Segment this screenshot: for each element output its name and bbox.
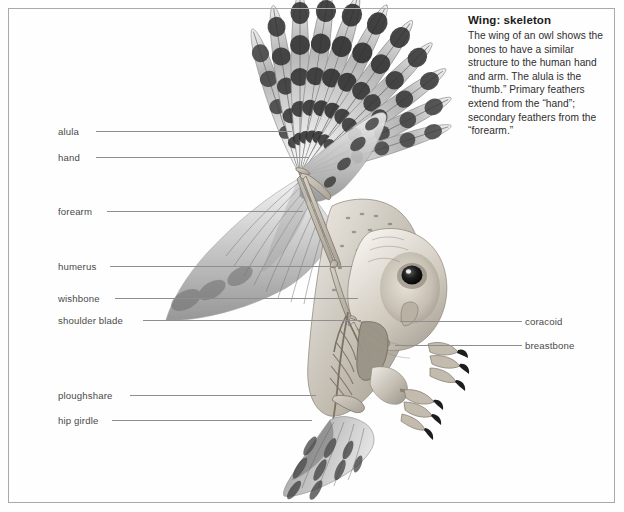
figure-page: Wing: skeleton The wing of an owl shows … [0,0,624,512]
leader-line-forearm [107,211,303,212]
left-foot-claws [424,400,443,440]
left-foot [401,390,434,431]
leader-line-breastbone [395,345,522,346]
label-shoulder-blade: shoulder blade [58,315,123,326]
leader-line-ploughshare [130,395,316,396]
label-breastbone: breastbone [525,340,575,351]
leader-line-humerus [110,266,352,267]
label-ploughshare: ploughshare [58,390,112,401]
leader-line-shoulder-blade [143,320,361,321]
caption-title: Wing: skeleton [468,14,610,26]
leader-line-wishbone [115,298,358,299]
label-hip-girdle: hip girdle [58,415,98,426]
label-wishbone: wishbone [58,293,100,304]
tail-feathers [283,417,374,502]
label-alula: alula [58,126,79,137]
owl-eye [397,263,427,289]
leader-line-coracoid [400,321,522,322]
label-forearm: forearm [58,206,92,217]
label-hand: hand [58,152,80,163]
right-foot-claws [455,349,469,391]
caption-body: The wing of an owl shows the bones to ha… [468,29,610,138]
leader-line-hand [96,157,309,158]
right-foot [428,342,460,382]
leader-line-alula [96,131,292,132]
label-coracoid: coracoid [525,316,562,327]
leader-line-hip-girdle [112,420,312,421]
label-humerus: humerus [58,261,96,272]
caption-block: Wing: skeleton The wing of an owl shows … [468,14,610,138]
